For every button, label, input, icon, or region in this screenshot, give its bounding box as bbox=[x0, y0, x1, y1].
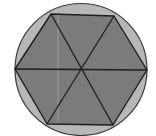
diagram-svg bbox=[0, 0, 156, 136]
hexagon-in-circle-diagram bbox=[0, 0, 156, 136]
